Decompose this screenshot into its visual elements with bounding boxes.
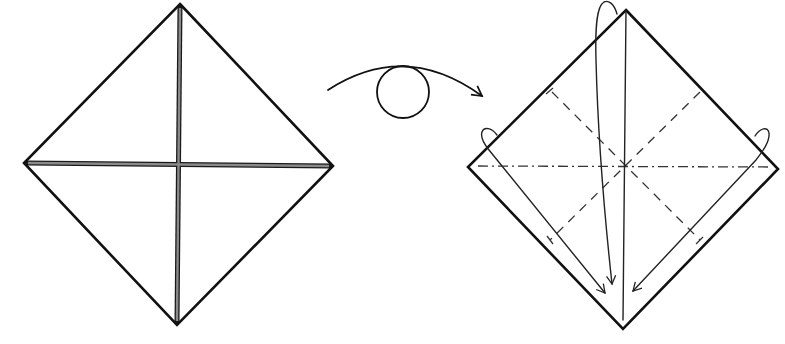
step-b-diagram [468, 1, 778, 329]
top-corner-arrow [596, 1, 617, 284]
left-corner-arrow [482, 128, 605, 293]
right-corner-arrow [633, 129, 769, 291]
turn-over-icon [328, 66, 482, 118]
origami-diagram [0, 0, 785, 344]
crease-cross [26, 6, 331, 323]
step-a-diagram [24, 4, 333, 325]
